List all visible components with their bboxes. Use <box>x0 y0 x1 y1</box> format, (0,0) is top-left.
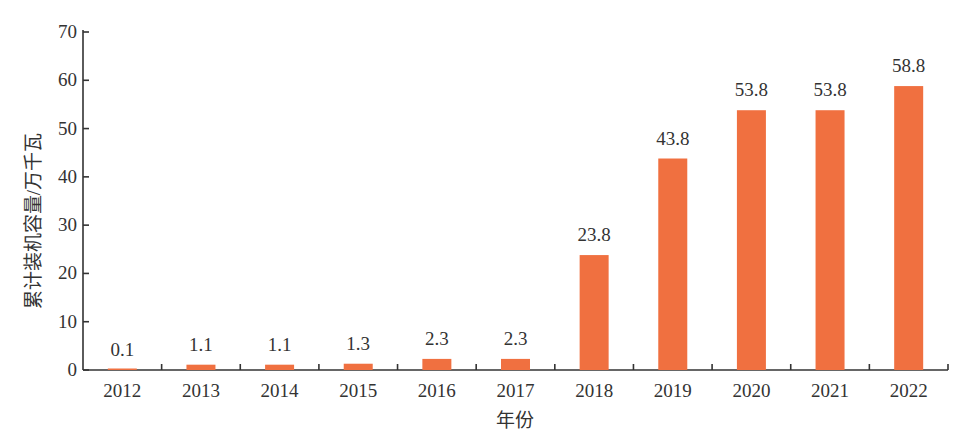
x-tick-label: 2015 <box>339 380 377 401</box>
data-label-2018: 23.8 <box>578 224 611 245</box>
data-label-2019: 43.8 <box>656 128 689 149</box>
data-label-2014: 1.1 <box>268 334 292 355</box>
data-label-2016: 2.3 <box>425 328 449 349</box>
data-labels: 0.11.11.11.32.32.323.843.853.853.858.8 <box>110 55 925 359</box>
data-label-2022: 58.8 <box>892 55 925 76</box>
x-tick-label: 2013 <box>182 380 220 401</box>
x-tick-label: 2018 <box>575 380 613 401</box>
bar-2017 <box>501 359 530 370</box>
y-axis: 010203040506070 <box>58 21 89 380</box>
bar-2013 <box>186 365 215 370</box>
x-tick-label: 2020 <box>732 380 770 401</box>
x-tick-label: 2016 <box>418 380 456 401</box>
y-tick-label: 40 <box>58 166 77 187</box>
y-tick-label: 60 <box>58 69 77 90</box>
data-label-2021: 53.8 <box>813 79 846 100</box>
x-tick-label: 2017 <box>497 380 535 401</box>
bar-2020 <box>737 110 766 370</box>
x-axis-title: 年份 <box>496 410 534 431</box>
data-label-2017: 2.3 <box>504 328 528 349</box>
x-tick-label: 2022 <box>890 380 928 401</box>
data-label-2013: 1.1 <box>189 334 213 355</box>
data-label-2012: 0.1 <box>110 339 134 360</box>
bar-chart: 010203040506070 201220132014201520162017… <box>0 0 960 447</box>
x-tick-label: 2012 <box>103 380 141 401</box>
bar-2014 <box>265 365 294 370</box>
bar-2019 <box>658 159 687 370</box>
y-axis-title: 累计装机容量/万千瓦 <box>23 133 44 309</box>
y-tick-label: 70 <box>58 21 77 42</box>
data-label-2015: 1.3 <box>346 333 370 354</box>
y-tick-label: 0 <box>68 359 78 380</box>
bar-2021 <box>816 110 845 370</box>
y-tick-label: 50 <box>58 118 77 139</box>
x-tick-label: 2019 <box>654 380 692 401</box>
y-tick-label: 20 <box>58 262 77 283</box>
bar-2016 <box>422 359 451 370</box>
bar-2022 <box>894 86 923 370</box>
x-tick-label: 2014 <box>261 380 300 401</box>
bar-2018 <box>580 255 609 370</box>
y-tick-label: 30 <box>58 214 77 235</box>
data-label-2020: 53.8 <box>735 79 768 100</box>
x-tick-label: 2021 <box>811 380 849 401</box>
bar-2012 <box>108 369 137 371</box>
bar-2015 <box>344 364 373 370</box>
y-tick-label: 10 <box>58 311 77 332</box>
